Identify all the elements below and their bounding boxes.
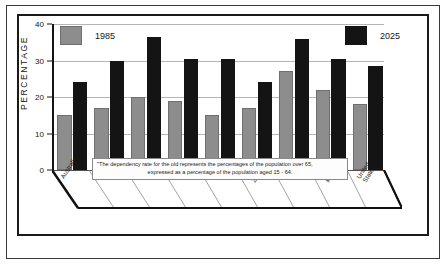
y-axis: PERCENTAGE 010203040 — [0, 24, 52, 170]
bar-2025-france — [110, 61, 124, 171]
bar-2025-italy — [184, 59, 198, 170]
plot-area-wrapper — [52, 24, 384, 170]
footnote-line-2: expressed as a percentage of the populat… — [97, 169, 343, 177]
plot-area — [52, 24, 384, 170]
y-tick-label: 30 — [35, 56, 44, 65]
legend-swatch-2025 — [345, 26, 367, 45]
bar-group — [165, 24, 202, 170]
bar-2025-united-states — [368, 66, 382, 170]
legend-label-2025: 2025 — [380, 31, 400, 41]
y-tick-label: 40 — [35, 20, 44, 29]
bar-2025-sweden — [295, 39, 309, 170]
bar-group — [238, 24, 275, 170]
bar-group — [202, 24, 239, 170]
legend-item-1985: 1985 — [60, 26, 115, 45]
y-axis-title: PERCENTAGE — [19, 13, 29, 133]
bar-series-container — [54, 24, 384, 170]
legend-label-1985: 1985 — [95, 31, 115, 41]
bar-2025-new-zealand — [258, 82, 272, 170]
bar-group — [128, 24, 165, 170]
bar-2025-united-kingdom — [331, 59, 345, 170]
y-tick-label: 0 — [40, 166, 44, 175]
bar-group — [349, 24, 386, 170]
bar-2025-japan — [221, 59, 235, 170]
bar-group — [54, 24, 91, 170]
bar-group — [275, 24, 312, 170]
bar-group — [91, 24, 128, 170]
footnote-line-1: "The dependency rate for the old represe… — [97, 161, 343, 169]
y-tick-label: 10 — [35, 129, 44, 138]
chart-screenshot: PERCENTAGE 010203040 AustraliaFranceGerm… — [0, 0, 446, 268]
bar-group — [312, 24, 349, 170]
bar-2025-germany — [147, 37, 161, 170]
legend-item-2025: 2025 — [345, 26, 400, 45]
legend-swatch-1985 — [60, 26, 82, 45]
y-tick-label: 20 — [35, 93, 44, 102]
footnote-box: "The dependency rate for the old represe… — [92, 158, 348, 180]
bar-1985-sweden — [279, 71, 293, 170]
